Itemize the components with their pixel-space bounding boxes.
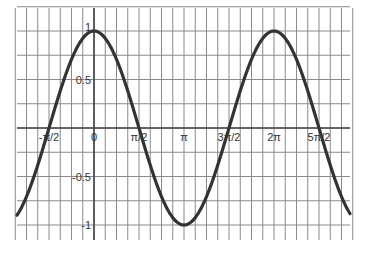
x-tick-label: 3π/2 bbox=[218, 131, 241, 143]
cosine-chart: -π/20π/2π3π/22π5π/2 10.5-0.5-1 bbox=[0, 0, 365, 253]
x-tick-label: -π/2 bbox=[39, 131, 59, 143]
x-tick-label: 5π/2 bbox=[308, 131, 331, 143]
x-tick-label: π bbox=[180, 131, 188, 143]
x-tick-label: 2π bbox=[267, 131, 281, 143]
x-tick-label: 0 bbox=[91, 131, 97, 143]
y-tick-label: 0.5 bbox=[76, 74, 91, 86]
grid-lines bbox=[15, 7, 353, 240]
y-tick-label: -0.5 bbox=[72, 171, 91, 183]
y-tick-label: -1 bbox=[81, 219, 91, 231]
y-tick-label: 1 bbox=[85, 21, 91, 33]
x-tick-label: π/2 bbox=[131, 131, 148, 143]
